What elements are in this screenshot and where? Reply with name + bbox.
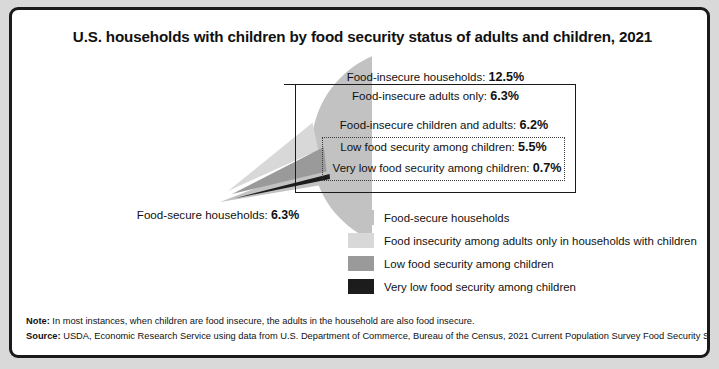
legend-item-very-low-food-security-among-children[interactable]: Very low food security among children	[348, 275, 697, 298]
footnote-source-text: USDA, Economic Research Service using da…	[61, 331, 710, 341]
callout-text: Very low food security among children:	[333, 162, 533, 174]
callout-very-low-food-security-among-children: Very low food security among children: 0…	[322, 161, 572, 175]
callout-text: Food-insecure adults only:	[352, 90, 490, 102]
callout-food-insecure-children-and-adults: Food-insecure children and adults: 6.2%	[312, 118, 576, 132]
legend-swatch	[348, 233, 374, 248]
footnote-note-text: In most instances, when children are foo…	[50, 316, 475, 326]
legend-item-label: Food-secure households	[384, 212, 509, 224]
legend-swatch	[348, 210, 374, 225]
pie-slice-label: Food-secure households: 6.3%	[108, 208, 328, 222]
pie-slice-label-value: 6.3%	[271, 208, 299, 222]
legend-swatch	[348, 279, 374, 294]
callout-value: 5.5%	[518, 140, 547, 154]
callout-value: 6.2%	[519, 118, 548, 132]
footnotes: Note: In most instances, when children a…	[26, 314, 701, 344]
callout-text: Food-insecure children and adults:	[340, 119, 520, 131]
legend-item-label: Low food security among children	[384, 258, 554, 270]
legend-item-label: Food insecurity among adults only in hou…	[384, 235, 697, 247]
footnote-source-label: Source:	[26, 331, 61, 341]
legend-item-food-secure-households[interactable]: Food-secure households	[348, 206, 697, 229]
legend: Food-secure households Food insecurity a…	[348, 206, 697, 298]
callout-low-food-security-among-children: Low food security among children: 5.5%	[322, 140, 565, 154]
legend-item-low-food-security-among-children[interactable]: Low food security among children	[348, 252, 697, 275]
callout-value: 6.3%	[490, 89, 519, 103]
chart-figure: U.S. households with children by food se…	[9, 7, 710, 358]
footnote-note: Note: In most instances, when children a…	[26, 314, 701, 329]
callout-food-insecure-households: Food-insecure households: 12.5%	[295, 70, 576, 84]
callout-value: 12.5%	[489, 70, 525, 84]
footnote-source: Source: USDA, Economic Research Service …	[26, 329, 701, 344]
callout-text: Low food security among children:	[340, 141, 518, 153]
callout-food-insecure-adults-only: Food-insecure adults only: 6.3%	[295, 89, 576, 103]
legend-item-label: Very low food security among children	[384, 281, 576, 293]
callout-value: 0.7%	[533, 161, 562, 175]
footnote-note-label: Note:	[26, 316, 50, 326]
callout-text: Food-insecure households:	[347, 71, 489, 83]
legend-item-food-insecurity-adults-only[interactable]: Food insecurity among adults only in hou…	[348, 229, 697, 252]
legend-swatch	[348, 256, 374, 271]
pie-slice-label-text: Food-secure households:	[137, 208, 271, 221]
